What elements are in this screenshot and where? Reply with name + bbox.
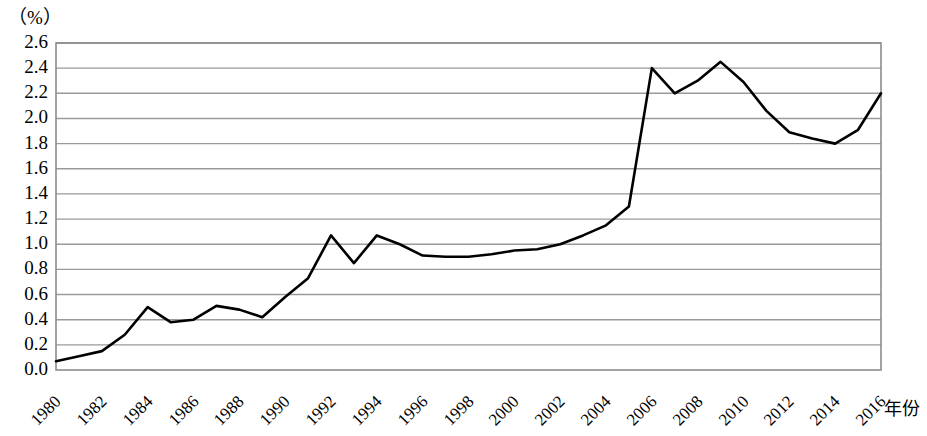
y-axis-tick-label: 2.0 <box>2 106 48 128</box>
y-axis-tick-label: 0.8 <box>2 257 48 279</box>
y-axis-tick-label: 0.4 <box>2 308 48 330</box>
gridlines <box>56 43 881 345</box>
y-axis-tick-label: 0.6 <box>2 283 48 305</box>
y-axis-tick-label: 0.0 <box>2 358 48 380</box>
y-axis-tick-label: 1.0 <box>2 232 48 254</box>
y-axis-tick-label: 2.6 <box>2 31 48 53</box>
line-chart-plot <box>0 0 927 436</box>
y-axis-tick-label: 1.2 <box>2 207 48 229</box>
y-axis-tick-label: 1.8 <box>2 132 48 154</box>
y-axis-tick-label: 1.4 <box>2 182 48 204</box>
y-axis-tick-label: 0.2 <box>2 333 48 355</box>
y-axis-tick-label: 2.4 <box>2 56 48 78</box>
chart-container: （%） 2.62.42.22.01.81.61.41.21.00.80.60.4… <box>0 0 927 436</box>
y-axis-tick-label: 1.6 <box>2 157 48 179</box>
data-series-line <box>56 62 881 361</box>
y-axis-tick-label: 2.2 <box>2 81 48 103</box>
x-axis-title: 年份 <box>884 394 920 420</box>
